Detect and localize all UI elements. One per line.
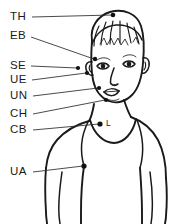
marker-dot-TH [111,13,116,18]
label-L: L [106,118,111,128]
marker-dot-SE [76,66,80,70]
label-EB: EB [10,29,26,41]
label-CH: CH [10,107,27,119]
marker-dot-EB [93,57,97,61]
label-SE: SE [10,59,26,71]
landmark-diagram-canvas: TH EB SE UE UN CH CB UA L [0,0,180,224]
marker-dot-UN [97,86,101,90]
label-UA: UA [10,165,27,177]
figure-drawing: TH EB SE UE UN CH CB UA L [0,0,180,224]
marker-dot-CH [104,98,108,102]
label-UE: UE [10,73,27,85]
marker-dot-CB [97,121,102,126]
label-TH: TH [10,10,26,22]
label-UN: UN [10,89,27,101]
marker-dot-UA [81,163,86,168]
label-CB: CB [10,123,27,135]
marker-dot-UE [85,71,89,75]
